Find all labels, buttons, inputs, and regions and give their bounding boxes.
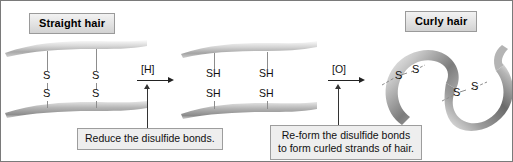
reaction-arrow-2-head — [359, 77, 365, 83]
caption-reform-disulfide: Re-form the disulfide bonds to form curl… — [270, 125, 422, 160]
sulfur-label: S — [43, 87, 50, 99]
sulfur-label: S — [412, 63, 419, 75]
sulfur-label: S — [92, 87, 99, 99]
thiol-label: SH — [206, 87, 221, 99]
caption-stem-2-head — [335, 84, 341, 89]
reagent-label-o: [O] — [332, 63, 346, 75]
hair-strand-bottom-left — [1, 99, 151, 121]
curly-hair-label: Curly hair — [405, 11, 477, 32]
straight-hair-label: Straight hair — [29, 13, 115, 34]
bond-segment — [96, 101, 97, 108]
caption-stem-1 — [147, 89, 148, 129]
thiol-label: SH — [259, 67, 274, 79]
hair-strand-top-left — [1, 37, 151, 59]
thiol-label: SH — [206, 67, 221, 79]
reagent-label-h: [H] — [141, 63, 154, 75]
sulfur-label: S — [453, 86, 460, 98]
bond-segment — [267, 101, 268, 109]
bond-segment — [214, 101, 215, 109]
thiol-label: SH — [259, 87, 274, 99]
reaction-arrow-2 — [328, 80, 360, 81]
bond-segment — [96, 49, 97, 71]
caption-reduce-disulfide: Reduce the disulfide bonds. — [77, 128, 223, 150]
hair-disulfide-diagram: Straight hair S S S S — [0, 0, 513, 162]
caption-stem-1-head — [144, 84, 150, 89]
hair-strand-top-middle — [179, 39, 319, 61]
caption-stem-2 — [338, 89, 339, 126]
reaction-arrow-1-head — [168, 77, 174, 83]
caption-line: Re-form the disulfide bonds — [278, 129, 414, 142]
caption-line: Reduce the disulfide bonds. — [85, 132, 215, 145]
caption-line: to form curled strands of hair. — [278, 142, 414, 155]
bond-segment — [47, 101, 48, 108]
reaction-arrow-1 — [137, 80, 169, 81]
sulfur-label: S — [471, 80, 478, 92]
sulfur-label: S — [92, 69, 99, 81]
bond-segment — [47, 51, 48, 71]
disulfide-bond-curly-1 — [381, 63, 437, 89]
sulfur-label: S — [395, 69, 402, 81]
hair-strand-bottom-middle — [179, 100, 319, 122]
sulfur-label: S — [43, 69, 50, 81]
